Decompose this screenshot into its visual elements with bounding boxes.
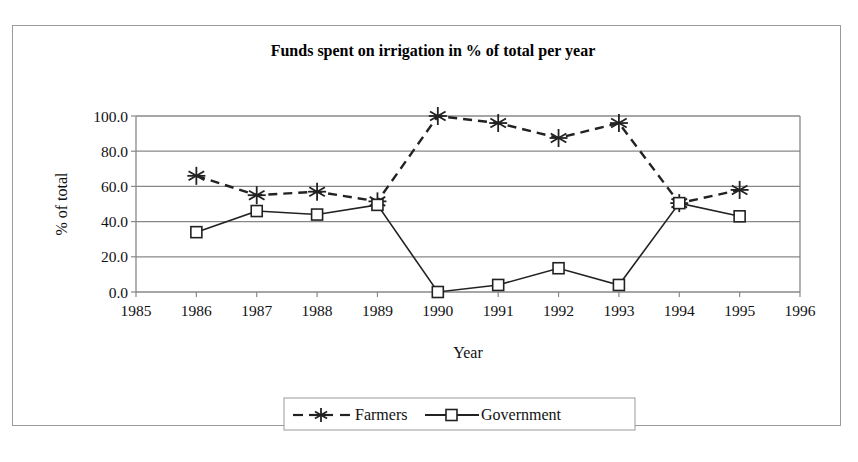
square-marker-icon [191,227,202,238]
y-axis-ticks: 0.020.040.060.080.0100.0 [93,108,128,301]
x-tick-label: 1991 [483,302,514,319]
legend-label-government: Government [481,406,562,423]
square-marker-icon [432,287,443,298]
x-tick-label: 1986 [181,302,212,319]
x-tick-label: 1992 [543,302,574,319]
x-tick-label: 1990 [422,302,453,319]
y-tick-label: 20.0 [101,248,128,265]
x-axis-ticks: 1985198619871988198919901991199219931994… [121,302,816,319]
asterisk-marker-icon [610,114,628,132]
y-tick-label: 0.0 [109,284,129,301]
asterisk-marker-icon [248,186,266,204]
square-marker-icon [674,198,685,209]
y-tick-label: 40.0 [101,213,128,230]
asterisk-marker-icon [187,167,205,185]
square-marker-icon [553,263,564,274]
x-tick-label: 1989 [362,302,393,319]
series-government [191,198,745,298]
square-marker-icon [251,206,262,217]
square-marker-icon [613,279,624,290]
y-tick-label: 60.0 [101,178,128,195]
square-marker-icon [734,211,745,222]
series-farmers [187,107,748,212]
legend: Farmers Government [284,398,635,430]
x-tick-label: 1995 [724,302,755,319]
axes [131,116,800,297]
square-marker-icon [493,279,504,290]
y-tick-label: 100.0 [93,108,128,125]
x-tick-label: 1996 [785,302,816,319]
asterisk-marker-icon [731,181,749,199]
line-chart: Funds spent on irrigation in % of total … [0,0,858,462]
asterisk-marker-icon [550,129,568,147]
legend-label-farmers: Farmers [355,406,407,423]
asterisk-marker-icon [429,107,447,125]
x-tick-label: 1985 [121,302,152,319]
x-tick-label: 1993 [603,302,634,319]
chart-title: Funds spent on irrigation in % of total … [271,42,596,60]
x-tick-label: 1987 [241,302,272,319]
x-axis-label: Year [453,344,483,361]
x-tick-label: 1994 [664,302,695,319]
gridlines [136,116,800,292]
x-tick-label: 1988 [302,302,333,319]
square-marker-icon [372,199,383,210]
square-marker-icon [446,410,457,421]
data-series [187,107,748,298]
square-marker-icon [312,209,323,220]
y-tick-label: 80.0 [101,143,128,160]
asterisk-marker-icon [489,114,507,132]
y-axis-label: % of total [53,172,70,236]
asterisk-marker-icon [308,183,326,201]
